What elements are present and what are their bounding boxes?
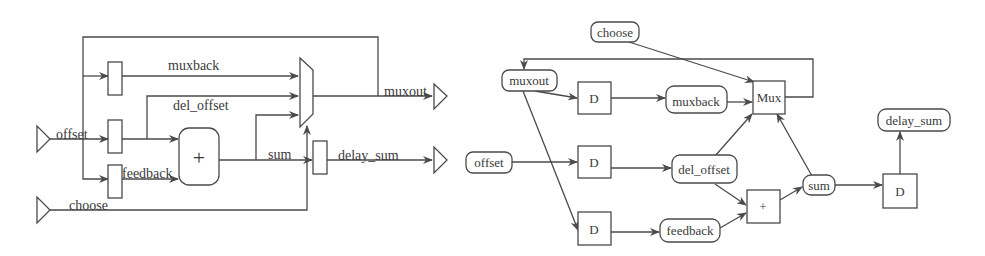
register-del-offset	[108, 120, 122, 153]
edge-adder-sum	[780, 187, 802, 200]
node-d-sum-label: D	[895, 184, 904, 199]
node-d-muxback-label: D	[589, 91, 598, 106]
edge-choose-mux	[629, 42, 754, 82]
edge-sum-mux	[777, 114, 812, 176]
edge-muxout-d1	[535, 91, 577, 98]
label-muxback: muxback	[168, 58, 219, 73]
adder-plus-icon: +	[193, 145, 205, 170]
label-del-offset: del_offset	[173, 98, 229, 113]
node-feedback-label: feedback	[667, 223, 714, 238]
node-offset-label: offset	[474, 155, 504, 170]
node-del-offset-label: del_offset	[678, 162, 730, 177]
input-port-offset	[37, 126, 50, 152]
edge-del-offset-adder	[715, 184, 746, 205]
node-choose-label: choose	[597, 25, 633, 40]
node-d-offset-label: D	[589, 155, 598, 170]
label-offset: offset	[56, 127, 88, 142]
node-sum-label: sum	[808, 178, 830, 193]
node-muxback-label: muxback	[672, 94, 720, 109]
output-port-muxout	[434, 84, 447, 109]
register-feedback	[108, 165, 122, 198]
register-muxback	[108, 62, 122, 95]
mux-block	[300, 58, 313, 127]
node-adder-label: +	[759, 199, 766, 214]
node-muxout-label: muxout	[509, 73, 549, 88]
label-delay-sum: delay_sum	[338, 148, 399, 163]
label-choose: choose	[69, 198, 108, 213]
label-muxout: muxout	[384, 84, 427, 99]
edge-del-offset-mux	[715, 114, 752, 156]
edge-feedback-adder	[720, 213, 746, 228]
edge-muxout-d3	[523, 91, 578, 230]
input-port-choose	[37, 197, 50, 223]
label-sum: sum	[268, 147, 291, 162]
circuit-schematic: offset choose muxback del_offset feedbac…	[37, 37, 447, 223]
diagram-canvas: offset choose muxback del_offset feedbac…	[0, 0, 985, 256]
node-d-feedback-label: D	[589, 222, 598, 237]
label-feedback: feedback	[122, 166, 173, 181]
dataflow-graph: choose muxout offset muxback del_offset …	[466, 22, 950, 245]
register-delay-sum	[313, 141, 327, 174]
node-mux-label: Mux	[757, 90, 782, 105]
wire-muxout-feedback	[83, 37, 378, 179]
node-delay-sum-label: delay_sum	[886, 113, 942, 128]
output-port-delay-sum	[434, 147, 447, 173]
